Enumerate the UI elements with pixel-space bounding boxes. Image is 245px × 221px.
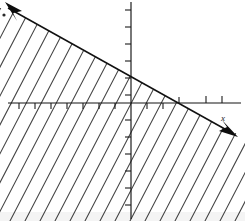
scan-speck <box>2 13 5 16</box>
inequality-graph-figure: x <box>0 0 245 221</box>
coordinate-plane-svg: x <box>0 0 245 221</box>
figure-background <box>0 0 245 221</box>
x-axis-label: x <box>220 113 225 123</box>
scan-edge-shadow <box>0 212 245 221</box>
